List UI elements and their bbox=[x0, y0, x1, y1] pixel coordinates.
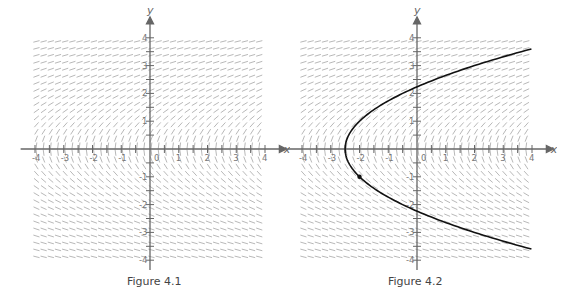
y-tick-label: 4 bbox=[142, 33, 147, 43]
x-tick-label: 0 bbox=[421, 153, 426, 163]
figure-4-2: -4-3-2-101234-4-3-2-11234xy bbox=[267, 0, 557, 279]
y-tick-label: -2 bbox=[139, 200, 147, 210]
y-tick-label: -4 bbox=[139, 255, 147, 265]
x-axis-label: x bbox=[550, 143, 557, 156]
x-tick-label: -4 bbox=[32, 153, 40, 163]
y-axis-label: y bbox=[146, 4, 154, 17]
x-tick-label: -2 bbox=[357, 153, 365, 163]
x-tick-label: 2 bbox=[472, 153, 477, 163]
x-tick-label: -3 bbox=[328, 153, 336, 163]
y-tick-label: -1 bbox=[139, 172, 147, 182]
x-tick-label: -4 bbox=[299, 153, 307, 163]
y-tick-label: -4 bbox=[406, 255, 414, 265]
slope-field-plot-1: -4-3-2-101234-4-3-2-11234xy bbox=[0, 0, 290, 275]
x-tick-label: 1 bbox=[176, 153, 181, 163]
y-tick-label: 4 bbox=[409, 33, 414, 43]
slope-field-plot-2: -4-3-2-101234-4-3-2-11234xy bbox=[267, 0, 557, 275]
figure-caption-2: Figure 4.2 bbox=[388, 275, 443, 288]
marked-point bbox=[357, 175, 361, 179]
y-tick-label: 1 bbox=[142, 116, 147, 126]
x-tick-label: 2 bbox=[205, 153, 210, 163]
figure-caption-1: Figure 4.1 bbox=[127, 275, 182, 288]
x-tick-label: 1 bbox=[443, 153, 448, 163]
figure-4-1: -4-3-2-101234-4-3-2-11234xy bbox=[0, 0, 290, 279]
y-tick-label: 1 bbox=[409, 116, 414, 126]
x-tick-label: -2 bbox=[90, 153, 98, 163]
x-tick-label: -1 bbox=[385, 153, 393, 163]
y-tick-label: -3 bbox=[139, 227, 147, 237]
x-tick-label: 3 bbox=[233, 153, 238, 163]
y-tick-label: 2 bbox=[142, 88, 147, 98]
y-tick-label: 3 bbox=[142, 61, 147, 71]
y-tick-label: -3 bbox=[406, 227, 414, 237]
x-tick-label: 3 bbox=[500, 153, 505, 163]
x-tick-label: -3 bbox=[61, 153, 69, 163]
y-axis-arrow-icon bbox=[414, 17, 421, 24]
y-tick-label: 3 bbox=[409, 61, 414, 71]
y-axis-label: y bbox=[413, 4, 421, 17]
x-tick-label: 0 bbox=[154, 153, 159, 163]
y-tick-label: -1 bbox=[406, 172, 414, 182]
x-tick-label: 4 bbox=[529, 153, 534, 163]
y-axis-arrow-icon bbox=[147, 17, 154, 24]
x-tick-label: -1 bbox=[118, 153, 126, 163]
